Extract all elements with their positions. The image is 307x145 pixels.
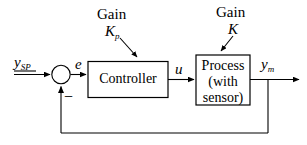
controller-gain-symbol: Kp [105,24,120,39]
process-gain-word: Gain [216,5,245,20]
setpoint-label-subscript: SP [21,62,31,72]
measured-output-label-subscript: m [268,64,275,74]
controller-gain-word: Gain [97,7,126,22]
error-label-base: e [75,56,82,72]
control-signal-label: u [175,62,183,77]
controller-block-label: Controller [88,72,168,86]
controller-gain-symbol-subscript: p [115,31,120,41]
process-block-label-line3: sensor) [196,91,250,105]
control-signal-label-base: u [175,61,183,77]
error-label: e [75,57,82,72]
controller-gain-symbol-base: K [105,23,115,39]
summing-junction-circle [52,65,70,83]
measured-output-label-base: y [261,56,268,72]
process-gain-symbol: K [228,22,238,37]
process-block-label-line2: (with [196,75,250,89]
process-gain-leader-arrow [221,36,233,51]
measured-output-label: ym [261,57,274,72]
setpoint-label: ySP [14,55,31,70]
controller-gain-leader-arrow [120,38,137,57]
process-block-label-line1: Process [196,59,250,73]
summing-junction-minus-sign: − [64,88,73,106]
process-gain-symbol-base: K [228,21,238,37]
block-diagram: Gain Kp Gain K ySP − e Controller u Proc… [0,0,307,145]
setpoint-label-base: y [14,54,21,70]
